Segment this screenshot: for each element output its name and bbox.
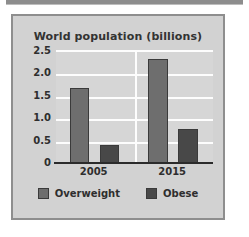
- x-axis-line: [54, 162, 213, 164]
- bar-obese-2015: [178, 129, 198, 164]
- chart-title: World population (billions): [13, 30, 223, 43]
- plot-area: [56, 50, 213, 164]
- y-axis-tick: 1.0: [33, 112, 51, 123]
- x-axis-label: 2005: [80, 166, 108, 177]
- x-axis-label: 2015: [158, 166, 186, 177]
- y-axis-tick: 2.0: [33, 67, 51, 78]
- legend-label-overweight: Overweight: [55, 188, 120, 199]
- top-strip: [6, 0, 243, 5]
- plot-wrapper: 2.52.01.51.00.50 20052015: [28, 50, 213, 180]
- chart-panel: World population (billions) 2.52.01.51.0…: [11, 14, 225, 220]
- legend-item-overweight: Overweight: [38, 188, 120, 199]
- chart-legend: Overweight Obese: [13, 188, 223, 199]
- y-axis-tick: 2.5: [33, 45, 51, 56]
- bar-overweight-2015: [148, 59, 168, 164]
- y-axis: 2.52.01.51.00.50: [28, 50, 54, 162]
- y-axis-tick: 0: [44, 157, 51, 168]
- bar-overweight-2005: [70, 88, 90, 164]
- legend-label-obese: Obese: [163, 188, 198, 199]
- group-divider: [135, 52, 137, 164]
- legend-swatch-overweight: [38, 188, 49, 199]
- y-axis-tick: 0.5: [33, 134, 51, 145]
- legend-item-obese: Obese: [146, 188, 198, 199]
- legend-swatch-obese: [146, 188, 157, 199]
- y-axis-tick: 1.5: [33, 89, 51, 100]
